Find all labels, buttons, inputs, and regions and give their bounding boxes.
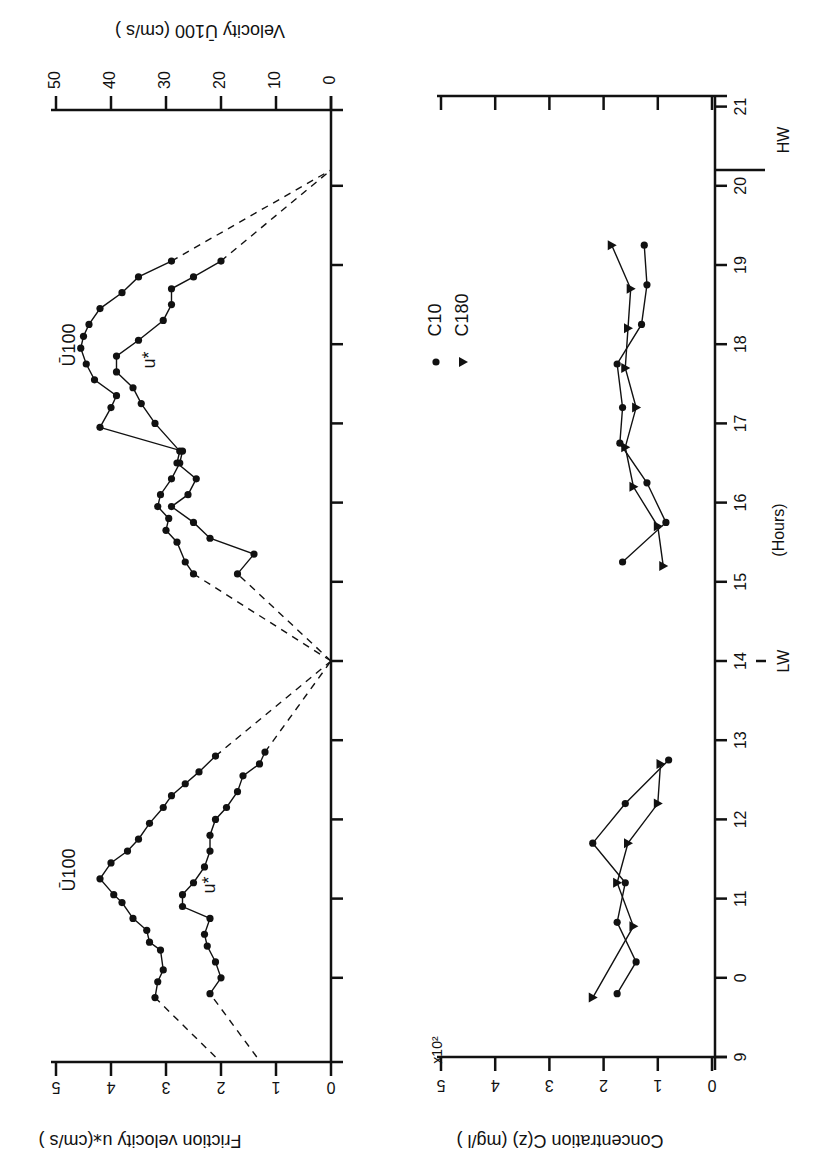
u100-label-right: Ū100: [59, 323, 79, 366]
c10-point: [643, 281, 650, 288]
hours-label: (Hours): [770, 503, 787, 556]
ustar-point: [193, 475, 200, 482]
u100-label-left: Ū100: [59, 848, 79, 891]
u100-point: [182, 558, 189, 565]
hour-tick-label: 18: [732, 335, 749, 353]
legend-c10-marker: [432, 358, 439, 365]
ustar-point: [201, 863, 208, 870]
c10-point: [643, 479, 650, 486]
u100-point: [168, 792, 175, 799]
ustar-point: [234, 570, 241, 577]
ustar-dashed-line: [265, 661, 331, 752]
ustar-point: [173, 459, 180, 466]
c180-point: [627, 284, 636, 294]
right-axis-tick-label: 10: [266, 71, 283, 89]
c180-point: [632, 403, 641, 413]
c10-point: [614, 919, 621, 926]
series-group: [77, 170, 672, 1057]
hour-tick-label: 16: [732, 494, 749, 512]
u100-point: [118, 899, 125, 906]
ustar-point: [168, 285, 175, 292]
ustar-point: [201, 931, 208, 938]
concentration-tick-label: 4: [491, 1077, 500, 1094]
hour-tick-label: 17: [732, 414, 749, 432]
ustar-point: [179, 903, 186, 910]
c10-line: [617, 245, 666, 562]
c10-point: [622, 800, 629, 807]
c180-point: [659, 561, 668, 571]
u100-point: [96, 305, 103, 312]
ustar-line: [117, 261, 255, 574]
c10-line: [593, 760, 669, 994]
u100-point: [165, 515, 172, 522]
ustar-point: [129, 384, 136, 391]
right-axis-tick-label: 40: [101, 71, 118, 89]
ustar-point: [138, 400, 145, 407]
c10-point: [641, 242, 648, 249]
ustar-point: [168, 301, 175, 308]
u100-point: [118, 289, 125, 296]
hour-tick-label: 20: [732, 177, 749, 195]
c180-point: [624, 838, 633, 848]
left-axis-tick-label: 1: [271, 1079, 280, 1096]
c10-point: [622, 879, 629, 886]
lw-label: LW: [775, 649, 792, 673]
c180-point: [608, 240, 617, 250]
u100-point: [162, 527, 169, 534]
u100-dashed-line: [172, 170, 332, 261]
ustar-point: [206, 847, 213, 854]
ustar-point: [206, 915, 213, 922]
u100-point: [135, 273, 142, 280]
u100-point: [96, 424, 103, 431]
ustar-point: [190, 519, 197, 526]
c10-point: [619, 558, 626, 565]
ustar-point: [135, 337, 142, 344]
u100-point: [154, 503, 161, 510]
u100-point: [124, 847, 131, 854]
c10-point: [614, 360, 621, 367]
u100-point: [168, 475, 175, 482]
ustar-dashed-line: [210, 994, 257, 1057]
hour-tick-label: 13: [732, 731, 749, 749]
left-axis-tick-label: 2: [216, 1079, 225, 1096]
hour-tick-label: 0: [732, 973, 749, 982]
ustar-point: [190, 273, 197, 280]
hour-tick-label: 21: [732, 98, 749, 116]
u100-point: [107, 404, 114, 411]
u100-point: [173, 539, 180, 546]
left-axis-tick-label: 3: [161, 1079, 170, 1096]
hour-tick-label: 15: [732, 573, 749, 591]
legend-c180-label: C180: [452, 293, 472, 336]
concentration-tick-label: 1: [653, 1077, 662, 1094]
right-axis-tick-label: 30: [156, 71, 173, 89]
c180-point: [629, 921, 638, 931]
u100-point: [160, 804, 167, 811]
hour-tick-label: 12: [732, 810, 749, 828]
u100-point: [154, 978, 161, 985]
hour-tick-label: 9: [732, 1052, 749, 1061]
u100-point: [157, 491, 164, 498]
ustar-point: [256, 760, 263, 767]
right-axis-tick-label: 0: [321, 75, 338, 84]
u100-point: [85, 321, 92, 328]
c180-point: [629, 482, 638, 492]
concentration-tick-label: 2: [599, 1077, 608, 1094]
ustar-point: [239, 772, 246, 779]
u100-point: [146, 939, 153, 946]
hour-tick-label: 19: [732, 256, 749, 274]
ustar-point: [151, 420, 158, 427]
u100-point: [182, 780, 189, 787]
c10-point: [589, 840, 596, 847]
legend-c10-label: C10: [425, 303, 445, 336]
friction-velocity-axis-title: Friction velocity u⁎(cm/s ): [38, 1131, 241, 1151]
ustar-point: [168, 503, 175, 510]
u100-point: [110, 891, 117, 898]
right-axis-tick-label: 50: [46, 71, 63, 89]
legend-c180-marker: [459, 357, 468, 367]
ustar-point: [223, 804, 230, 811]
u100-point: [146, 820, 153, 827]
ustar-point: [206, 535, 213, 542]
c10-point: [633, 958, 640, 965]
ustar-point: [234, 788, 241, 795]
ustar-point: [190, 879, 197, 886]
